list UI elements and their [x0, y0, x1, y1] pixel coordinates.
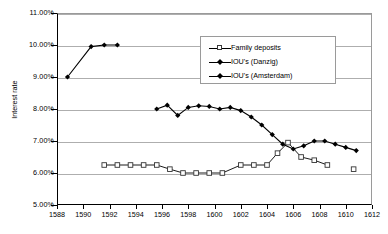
x-axis-tick-label: 1612 — [352, 211, 388, 218]
legend-item: Family deposits — [201, 41, 335, 55]
legend-item-label: IOU's (Amsterdam) — [231, 72, 292, 79]
x-axis-tick-mark — [346, 205, 347, 209]
y-axis-tick-mark — [51, 13, 57, 14]
x-axis-tick-mark — [188, 205, 189, 209]
y-axis-tick-label: 8.00% — [8, 105, 54, 112]
x-axis-tick-mark — [162, 205, 163, 209]
x-axis-tick-mark — [83, 205, 84, 209]
y-axis-tick-mark — [51, 109, 57, 110]
x-axis-tick-mark — [136, 205, 137, 209]
x-axis-tick-mark — [293, 205, 294, 209]
legend-marker-icon — [209, 43, 231, 53]
y-axis-tick-mark — [51, 173, 57, 174]
y-axis-tick-mark — [51, 45, 57, 46]
x-axis-tick-mark — [372, 205, 373, 209]
gridline — [58, 110, 371, 111]
gridline — [58, 142, 371, 143]
legend: Family depositsIOU's (Danzig)IOU's (Amst… — [200, 36, 336, 84]
legend-item-label: Family deposits — [231, 44, 281, 51]
legend-marker-icon — [209, 71, 231, 81]
gridline — [58, 174, 371, 175]
x-axis-tick-mark — [215, 205, 216, 209]
gridline — [58, 14, 371, 15]
y-axis-tick-label: 9.00% — [8, 73, 54, 80]
x-axis-tick-mark — [320, 205, 321, 209]
legend-item-label: IOU's (Danzig) — [231, 58, 278, 65]
y-axis-tick-mark — [51, 141, 57, 142]
x-axis-tick-mark — [267, 205, 268, 209]
y-axis-tick-label: 5.00% — [8, 201, 54, 208]
legend-item: IOU's (Danzig) — [201, 55, 335, 69]
x-axis-tick-mark — [57, 205, 58, 209]
legend-marker-icon — [209, 57, 231, 67]
interest-rate-line-chart: Interest rate Family depositsIOU's (Danz… — [0, 0, 388, 234]
y-axis-tick-label: 6.00% — [8, 169, 54, 176]
y-axis-tick-mark — [51, 77, 57, 78]
x-axis-tick-mark — [241, 205, 242, 209]
legend-item: IOU's (Amsterdam) — [201, 69, 335, 83]
y-axis-tick-label: 10.00% — [8, 41, 54, 48]
y-axis-tick-label: 7.00% — [8, 137, 54, 144]
x-axis-tick-mark — [110, 205, 111, 209]
y-axis-tick-label: 11.00% — [8, 9, 54, 16]
